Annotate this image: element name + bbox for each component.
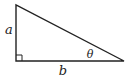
right-triangle-diagram: a b θ bbox=[0, 0, 133, 78]
right-angle-marker bbox=[16, 55, 22, 61]
label-theta: θ bbox=[87, 48, 94, 61]
triangle bbox=[16, 5, 124, 61]
label-a: a bbox=[5, 22, 13, 37]
label-b: b bbox=[59, 63, 67, 78]
